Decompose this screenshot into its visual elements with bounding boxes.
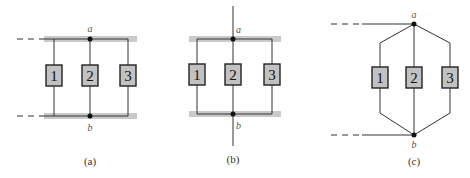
element-label-3: 3 (268, 67, 276, 83)
node-a-dot (412, 22, 417, 27)
element-label-2: 2 (229, 67, 237, 83)
node-b-label: b (236, 120, 241, 131)
node-a-label: a (88, 23, 93, 34)
node-a-label: a (236, 24, 241, 35)
node-b-label: b (412, 139, 417, 150)
node-b-dot (412, 133, 417, 138)
element-label-2: 2 (410, 70, 418, 86)
node-b-label: b (88, 122, 93, 133)
node-b-dot (88, 114, 93, 119)
panel-caption: (b) (227, 153, 240, 166)
element-label-1: 1 (193, 67, 201, 83)
panel-c: 1 2 3 a b (c) (331, 9, 458, 168)
panel-a: 1 2 3 a b (a) (17, 23, 137, 168)
node-a-dot (88, 37, 93, 42)
panel-b: 1 2 3 a b (b) (189, 6, 281, 166)
element-label-1: 1 (376, 70, 384, 86)
element-label-1: 1 (50, 68, 58, 84)
node-a-label: a (412, 9, 417, 20)
panel-caption: (c) (408, 155, 421, 168)
element-label-2: 2 (86, 68, 94, 84)
node-a-dot (231, 37, 236, 42)
element-label-3: 3 (124, 68, 132, 84)
element-label-3: 3 (446, 70, 454, 86)
node-b-dot (231, 112, 236, 117)
panel-caption: (a) (84, 155, 97, 168)
parallel-circuit-diagram: 1 2 3 a b (a) 1 2 3 a b (b) (0, 0, 470, 178)
